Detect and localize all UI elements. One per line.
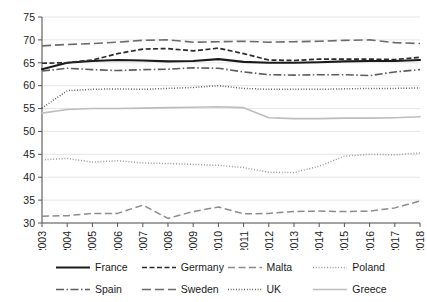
legend-label: UK: [267, 284, 282, 295]
y-tick-label: 70: [23, 34, 35, 46]
legend-item-malta[interactable]: Malta: [228, 256, 314, 278]
x-tick-label: 2017: [389, 231, 401, 250]
legend-swatch-solid: [56, 263, 90, 272]
legend-item-greece[interactable]: Greece: [313, 278, 399, 300]
x-axis-ticks: [42, 223, 420, 227]
legend-item-spain[interactable]: Spain: [56, 278, 142, 300]
y-tick-label: 40: [23, 171, 35, 183]
y-gridlines: [42, 17, 420, 223]
x-tick-label: 2009: [187, 231, 199, 250]
x-axis-tick-labels: 2003200420052006200720082009201020112012…: [36, 231, 426, 250]
legend-label: France: [95, 262, 128, 273]
x-tick-label: 2006: [112, 231, 124, 250]
x-tick-label: 2004: [61, 231, 73, 250]
legend-swatch-dotted: [313, 263, 347, 272]
y-axis-ticks: [38, 17, 42, 223]
legend-grid: FranceGermanyMaltaPolandSpainSwedenUKGre…: [0, 252, 427, 300]
legend-label: Poland: [352, 262, 385, 273]
legend-swatch-dotted-fine: [228, 285, 262, 294]
series-line-poland: [42, 153, 420, 173]
series-line-uk: [42, 86, 420, 108]
legend-label: Germany: [181, 262, 224, 273]
legend-swatch-longdash: [142, 285, 176, 294]
y-tick-label: 35: [23, 194, 35, 206]
series-line-spain: [42, 68, 420, 76]
y-tick-label: 65: [23, 57, 35, 69]
y-tick-label: 30: [23, 217, 35, 229]
legend-label: Malta: [267, 262, 293, 273]
legend-item-sweden[interactable]: Sweden: [142, 278, 228, 300]
x-tick-label: 2007: [137, 231, 149, 250]
legend-item-poland[interactable]: Poland: [313, 256, 399, 278]
legend-item-france[interactable]: France: [56, 256, 142, 278]
chart-figure: 30354045505560657075 2003200420052006200…: [0, 0, 427, 302]
y-axis-tick-labels: 30354045505560657075: [23, 11, 35, 229]
line-chart-svg: 30354045505560657075 2003200420052006200…: [0, 0, 427, 250]
series-line-france: [42, 59, 420, 69]
x-tick-label: 2011: [238, 231, 250, 250]
legend-swatch-solid-light: [313, 285, 347, 294]
series-line-malta: [42, 201, 420, 218]
y-tick-label: 55: [23, 102, 35, 114]
legend-label: Sweden: [181, 284, 219, 295]
x-tick-label: 2005: [86, 231, 98, 250]
x-tick-label: 2014: [313, 231, 325, 250]
legend-swatch-dashdot: [56, 285, 90, 294]
y-tick-label: 45: [23, 148, 35, 160]
x-tick-label: 2016: [364, 231, 376, 250]
legend-swatch-dashed: [142, 263, 176, 272]
y-tick-label: 50: [23, 125, 35, 137]
legend-swatch-dashed-light: [228, 263, 262, 272]
x-tick-label: 2013: [288, 231, 300, 250]
x-tick-label: 2015: [338, 231, 350, 250]
legend-label: Spain: [95, 284, 122, 295]
x-tick-label: 2018: [414, 231, 426, 250]
y-tick-label: 60: [23, 79, 35, 91]
data-series-layer: [42, 40, 420, 219]
x-tick-label: 2012: [263, 231, 275, 250]
chart-legend: FranceGermanyMaltaPolandSpainSwedenUKGre…: [0, 252, 427, 302]
legend-label: Greece: [352, 284, 386, 295]
x-tick-label: 2010: [212, 231, 224, 250]
series-line-sweden: [42, 40, 420, 46]
plot-area: 30354045505560657075 2003200420052006200…: [0, 0, 427, 250]
y-tick-label: 75: [23, 11, 35, 23]
legend-item-germany[interactable]: Germany: [142, 256, 228, 278]
x-tick-label: 2003: [36, 231, 48, 250]
x-tick-label: 2008: [162, 231, 174, 250]
legend-item-uk[interactable]: UK: [228, 278, 314, 300]
axis-lines: [42, 17, 420, 223]
